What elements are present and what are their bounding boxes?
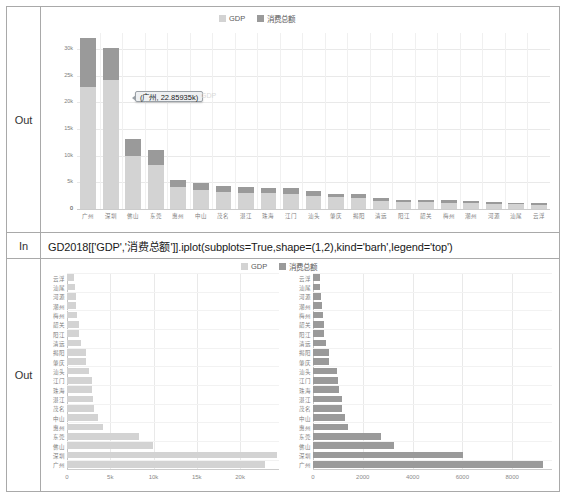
bar-consumption[interactable] xyxy=(193,183,209,190)
bar-gdp[interactable] xyxy=(67,330,79,337)
bar-consumption[interactable] xyxy=(216,186,232,192)
bar-consumption[interactable] xyxy=(486,202,502,204)
bar-consumption[interactable] xyxy=(313,349,329,356)
bar-consumption[interactable] xyxy=(313,312,323,319)
bar-consumption[interactable] xyxy=(313,424,348,431)
bar-gdp[interactable] xyxy=(67,302,76,309)
bar-consumption[interactable] xyxy=(313,358,329,365)
bar-consumption[interactable] xyxy=(148,150,164,165)
chart-bottom-subplots[interactable]: GDP消费总额05k10k15k20k云浮汕尾河源潮州梅州韶关阳江清远揭阳肇庆汕… xyxy=(41,259,559,491)
bar-consumption[interactable] xyxy=(373,198,389,201)
bar-consumption[interactable] xyxy=(313,461,543,468)
bar-consumption[interactable] xyxy=(238,187,254,193)
bar-consumption[interactable] xyxy=(313,452,463,459)
bar-gdp[interactable] xyxy=(67,274,74,281)
bar-gdp[interactable] xyxy=(67,442,153,449)
bar-consumption[interactable] xyxy=(328,194,344,197)
bar-gdp[interactable] xyxy=(67,424,103,431)
bar-gdp[interactable] xyxy=(261,193,277,209)
bar-consumption[interactable] xyxy=(313,321,324,328)
bar-gdp[interactable] xyxy=(67,284,75,291)
bar-gdp[interactable] xyxy=(396,202,412,209)
bar-gdp[interactable] xyxy=(328,197,344,209)
x-tick-label: 湛江 xyxy=(240,212,252,220)
bar-gdp[interactable] xyxy=(418,202,434,209)
bar-consumption[interactable] xyxy=(313,405,342,412)
legend-item-1[interactable]: 消费总额 xyxy=(279,261,317,272)
bar-consumption[interactable] xyxy=(313,293,321,300)
legend-swatch-icon xyxy=(219,15,226,22)
bar-gdp[interactable] xyxy=(67,433,139,440)
bar-consumption[interactable] xyxy=(283,188,299,193)
bar-consumption[interactable] xyxy=(313,368,337,375)
code-input[interactable]: GD2018[['GDP','消费总额']].iplot(subplots=Tr… xyxy=(41,233,559,258)
category-label: 佛山 xyxy=(288,443,311,451)
bar-consumption[interactable] xyxy=(125,139,141,156)
bar-consumption[interactable] xyxy=(170,180,186,188)
bar-gdp[interactable] xyxy=(238,193,254,209)
bar-gdp[interactable] xyxy=(216,192,232,209)
bar-consumption[interactable] xyxy=(313,274,320,281)
bar-gdp[interactable] xyxy=(67,386,92,393)
bar-gdp[interactable] xyxy=(67,396,93,403)
legend-item-1[interactable]: 消费总额 xyxy=(257,13,295,24)
bar-gdp[interactable] xyxy=(373,201,389,209)
bar-consumption[interactable] xyxy=(313,442,394,449)
bar-consumption[interactable] xyxy=(418,200,434,202)
bar-gdp[interactable] xyxy=(170,187,186,209)
bar-consumption[interactable] xyxy=(313,340,326,347)
bar-consumption[interactable] xyxy=(103,48,119,80)
bar-consumption[interactable] xyxy=(80,38,96,87)
bar-gdp[interactable] xyxy=(67,368,89,375)
legend-label: GDP xyxy=(229,14,245,23)
bar-gdp[interactable] xyxy=(80,87,96,209)
bar-gdp[interactable] xyxy=(67,340,81,347)
bar-gdp[interactable] xyxy=(67,414,98,421)
bar-consumption[interactable] xyxy=(313,302,322,309)
bar-consumption[interactable] xyxy=(313,386,339,393)
gridline-x xyxy=(302,33,303,209)
bar-gdp[interactable] xyxy=(67,461,265,468)
bar-consumption[interactable] xyxy=(463,201,479,203)
legend-item-0[interactable]: GDP xyxy=(219,14,245,23)
bar-gdp[interactable] xyxy=(283,194,299,209)
bar-consumption[interactable] xyxy=(441,200,457,202)
bar-gdp[interactable] xyxy=(67,377,92,384)
bar-consumption[interactable] xyxy=(531,203,547,204)
bar-gdp[interactable] xyxy=(67,293,76,300)
bar-gdp[interactable] xyxy=(67,349,86,356)
x-tick-label: 河源 xyxy=(488,212,500,220)
bar-gdp[interactable] xyxy=(67,358,86,365)
bar-consumption[interactable] xyxy=(313,284,320,291)
legend-item-0[interactable]: GDP xyxy=(241,262,267,271)
bar-consumption[interactable] xyxy=(261,188,277,194)
x-tick-label: 云浮 xyxy=(533,212,545,220)
bar-gdp[interactable] xyxy=(351,198,367,209)
bar-consumption[interactable] xyxy=(396,200,412,202)
x-tick-label: 4000 xyxy=(403,474,423,480)
bar-gdp[interactable] xyxy=(67,452,277,459)
chart-top-stacked-bar[interactable]: GDP消费总额05k10k15k20k25k30k广州深圳佛山东莞惠州中山茂名湛… xyxy=(41,7,559,232)
bar-gdp[interactable] xyxy=(67,321,79,328)
bar-gdp[interactable] xyxy=(125,156,141,209)
bar-consumption[interactable] xyxy=(313,396,342,403)
bar-consumption[interactable] xyxy=(313,377,338,384)
category-label: 深圳 xyxy=(288,452,311,460)
bar-consumption[interactable] xyxy=(306,191,322,196)
bar-gdp[interactable] xyxy=(148,165,164,209)
x-tick-label: 肇庆 xyxy=(330,212,342,220)
bar-gdp[interactable] xyxy=(67,312,77,319)
bar-consumption[interactable] xyxy=(313,433,381,440)
gridline-x xyxy=(527,33,528,209)
screenshot-root: Out GDP消费总额05k10k15k20k25k30k广州深圳佛山东莞惠州中… xyxy=(0,0,567,498)
category-label: 潮州 xyxy=(288,303,311,311)
bar-gdp[interactable] xyxy=(193,190,209,209)
bar-gdp[interactable] xyxy=(67,405,94,412)
bar-consumption[interactable] xyxy=(351,194,367,197)
bar-gdp[interactable] xyxy=(306,196,322,209)
bar-consumption[interactable] xyxy=(313,330,324,337)
gridline-y xyxy=(67,292,279,293)
bar-gdp[interactable] xyxy=(103,80,119,209)
bar-consumption[interactable] xyxy=(508,203,524,205)
bar-consumption[interactable] xyxy=(313,414,345,421)
